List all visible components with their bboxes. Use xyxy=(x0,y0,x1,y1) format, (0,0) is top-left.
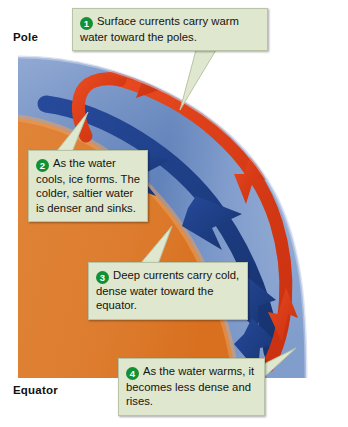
equator-label: Equator xyxy=(13,384,58,396)
callout-3-text: Deep currents carry cold, dense water to… xyxy=(96,269,239,311)
callout-2-number-badge: 2 xyxy=(36,159,49,172)
callout-2-text: As the water cools, ice forms. The colde… xyxy=(36,157,140,214)
callout-3-number-badge: 3 xyxy=(96,271,109,284)
ocean-circulation-diagram: Pole Equator 1Surface currents carry war… xyxy=(0,0,348,427)
callout-4-text: As the water warms, it becomes less dens… xyxy=(126,365,254,407)
callout-3: 3Deep currents carry cold, dense water t… xyxy=(88,262,248,320)
callout-4-number-badge: 4 xyxy=(126,367,139,380)
pole-label: Pole xyxy=(13,31,38,43)
callout-2: 2As the water cools, ice forms. The cold… xyxy=(28,150,148,222)
callout-1-number-badge: 1 xyxy=(80,17,93,30)
callout-1-text: Surface currents carry warm water toward… xyxy=(80,15,239,43)
callout-1: 1Surface currents carry warm water towar… xyxy=(72,8,268,51)
callout-4: 4As the water warms, it becomes less den… xyxy=(118,358,265,416)
